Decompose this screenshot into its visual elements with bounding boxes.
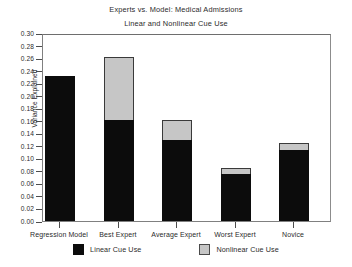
bar-segment-linear[interactable] [162, 140, 192, 221]
bar-segment-linear[interactable] [221, 174, 251, 221]
y-axis-tick-label: 0.22 [21, 80, 34, 88]
y-axis-tick: 0.22 [0, 80, 42, 88]
legend-swatch-nonlinear [199, 244, 210, 255]
y-axis-tick: 0.24 [0, 68, 42, 76]
bar-segment-nonlinear[interactable] [162, 120, 192, 140]
chart-subtitle: Linear and Nonlinear Cue Use [0, 18, 352, 29]
y-axis-tick: 0.08 [0, 168, 42, 176]
y-axis-tick-label: 0.12 [21, 143, 34, 151]
y-axis-tick: 0.02 [0, 205, 42, 213]
y-axis-tick-label: 0.08 [21, 168, 34, 176]
x-axis-tick-mark [176, 222, 177, 228]
y-axis-tick: 0.30 [0, 30, 42, 38]
bar-group[interactable] [221, 168, 251, 221]
y-axis-tick-label: 0.06 [21, 180, 34, 188]
y-axis-tick-label: 0.20 [21, 93, 34, 101]
bar-segment-nonlinear[interactable] [279, 143, 309, 150]
y-axis-tick: 0.12 [0, 143, 42, 151]
x-axis-tick-mark [235, 222, 236, 228]
y-axis-tick-label: 0.10 [21, 155, 34, 163]
x-axis-tick-mark [118, 222, 119, 228]
y-axis-tick: 0.14 [0, 130, 42, 138]
chart-legend: Linear Cue UseNonlinear Cue Use [0, 244, 352, 255]
y-axis-tick: 0.26 [0, 55, 42, 63]
legend-swatch-linear [73, 244, 84, 255]
y-axis-tick: 0.16 [0, 118, 42, 126]
chart-header: Experts vs. Model: Medical Admissions Li… [0, 4, 352, 29]
bar-segment-linear[interactable] [45, 76, 75, 221]
bar-group[interactable] [279, 143, 309, 221]
y-axis-tick: 0.06 [0, 180, 42, 188]
bar-group[interactable] [162, 120, 192, 222]
legend-label: Linear Cue Use [90, 245, 141, 254]
x-axis-tick-mark [293, 222, 294, 228]
bar-segment-nonlinear[interactable] [104, 57, 134, 120]
y-axis-tick-label: 0.04 [21, 193, 34, 201]
bar-group[interactable] [45, 76, 75, 221]
y-axis-tick-label: 0.28 [21, 43, 34, 51]
y-axis-tick: 0.20 [0, 93, 42, 101]
y-axis-tick-label: 0.00 [21, 218, 34, 226]
y-axis-tick-label: 0.02 [21, 205, 34, 213]
x-axis-tick-label: Novice [245, 231, 341, 238]
legend-item[interactable]: Nonlinear Cue Use [199, 244, 278, 255]
y-axis-tick: 0.28 [0, 43, 42, 51]
y-axis-tick: 0.18 [0, 105, 42, 113]
plot-area [42, 34, 331, 222]
y-axis-tick-label: 0.30 [21, 30, 34, 38]
y-axis-tick-label: 0.24 [21, 68, 34, 76]
y-axis-tick: 0.10 [0, 155, 42, 163]
bar-segment-linear[interactable] [104, 120, 134, 221]
x-axis-tick-mark [59, 222, 60, 228]
y-axis-tick: 0.00 [0, 218, 42, 226]
bar-group[interactable] [104, 57, 134, 221]
bar-segment-linear[interactable] [279, 150, 309, 221]
chart-title: Experts vs. Model: Medical Admissions [0, 4, 352, 15]
y-axis-tick-label: 0.18 [21, 105, 34, 113]
legend-label: Nonlinear Cue Use [216, 245, 278, 254]
y-axis-tick-label: 0.14 [21, 130, 34, 138]
y-axis-tick: 0.04 [0, 193, 42, 201]
legend-item[interactable]: Linear Cue Use [73, 244, 141, 255]
y-axis-tick-label: 0.26 [21, 55, 34, 63]
y-axis-tick-label: 0.16 [21, 118, 34, 126]
